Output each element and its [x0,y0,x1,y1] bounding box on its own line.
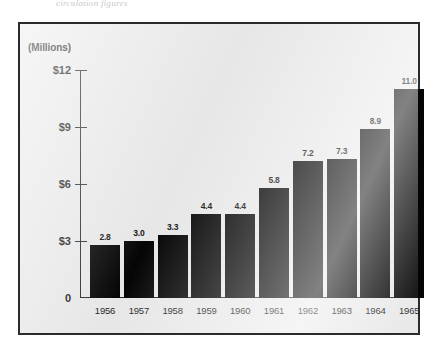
bar-rect[interactable] [225,214,255,298]
x-axis-category-label: 1960 [223,305,257,316]
x-axis-category-label: 1959 [189,305,223,316]
bar-rect[interactable] [90,245,120,298]
bar-value-label: 11.0 [394,76,424,86]
bar-group[interactable]: 11.01965 [394,70,424,298]
y-axis-tick-label: $6 [59,178,71,190]
bar-value-label: 4.4 [191,201,221,211]
bar-rect[interactable] [191,214,221,298]
y-axis-unit-label: (Millions) [28,42,71,53]
bar-rect[interactable] [293,161,323,298]
bar-group[interactable]: 4.41959 [191,70,221,298]
x-axis-category-label: 1956 [88,305,122,316]
x-axis-category-label: 1961 [257,305,291,316]
bar-value-label: 3.0 [124,228,154,238]
bar-rect[interactable] [327,159,357,298]
x-axis-category-label: 1962 [291,305,325,316]
chart-frame: (Millions) 0$3$6$9$12 2.819563.019573.31… [18,22,420,335]
bar-value-label: 7.3 [327,146,357,156]
bar-group[interactable]: 3.01957 [124,70,154,298]
bar-group[interactable]: 4.41960 [225,70,255,298]
y-axis-tick-label: $9 [59,121,71,133]
x-axis-category-label: 1958 [156,305,190,316]
x-axis-category-label: 1965 [392,305,426,316]
x-axis-category-label: 1964 [358,305,392,316]
bar-group[interactable]: 7.31963 [327,70,357,298]
bar-rect[interactable] [259,188,289,298]
bar-value-label: 8.9 [360,116,390,126]
y-axis-tick-label: $3 [59,235,71,247]
bar-group[interactable]: 2.81956 [90,70,120,298]
bar-value-label: 2.8 [90,232,120,242]
bar-rect[interactable] [360,129,390,298]
bar-rect[interactable] [394,89,424,298]
y-axis-tick-label: 0 [65,292,71,304]
x-axis-category-label: 1963 [325,305,359,316]
bar-value-label: 4.4 [225,201,255,211]
cropped-caption-fragment: circulation figures [56,0,216,10]
bar-value-label: 5.8 [259,175,289,185]
bar-series: 2.819563.019573.319584.419594.419605.819… [80,70,422,298]
bar-group[interactable]: 8.91964 [360,70,390,298]
bar-rect[interactable] [124,241,154,298]
bar-value-label: 3.3 [158,222,188,232]
y-axis-tick-label: $12 [53,64,71,76]
bar-rect[interactable] [158,235,188,298]
bar-group[interactable]: 5.81961 [259,70,289,298]
x-axis-category-label: 1957 [122,305,156,316]
bar-group[interactable]: 7.21962 [293,70,323,298]
plot-area: 0$3$6$9$12 2.819563.019573.319584.419594… [80,70,422,298]
bar-group[interactable]: 3.31958 [158,70,188,298]
bar-value-label: 7.2 [293,148,323,158]
